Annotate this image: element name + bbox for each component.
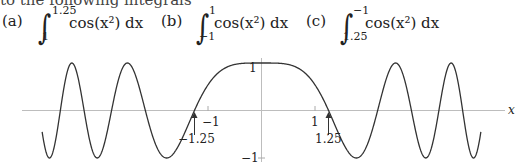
x-axis-label: x [508, 103, 515, 117]
x-tick-label: 1 [311, 115, 319, 129]
x-tick-label: −1 [202, 115, 220, 129]
y-tick-label: −1 [241, 151, 259, 165]
annotation-label: −1.25 [178, 132, 215, 146]
annotation-label: 1.25 [315, 132, 342, 146]
y-tick-label: 1 [249, 61, 257, 75]
cos-x-squared-plot: −1 1 1 −1 −1.25 1.25 x [0, 0, 520, 167]
